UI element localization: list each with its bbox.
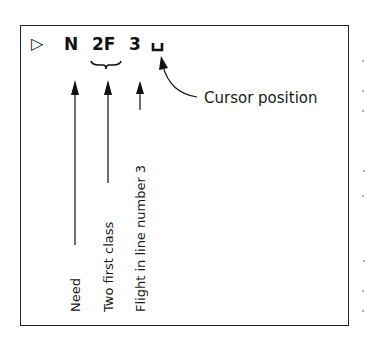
arrow-need-icon (71, 80, 79, 245)
label-need: Need (69, 278, 82, 312)
diagram-lines (0, 0, 366, 344)
label-two-first-class: Two first class (102, 222, 115, 312)
arrow-two-first-class-icon (104, 80, 112, 183)
cursor-icon (153, 43, 162, 50)
label-cursor-position: Cursor position (204, 91, 318, 106)
arrow-cursor-icon (159, 56, 197, 97)
brace-icon (91, 61, 121, 69)
label-flight-line: Flight in line number 3 (134, 165, 147, 312)
arrow-flight-line-icon (136, 81, 144, 110)
